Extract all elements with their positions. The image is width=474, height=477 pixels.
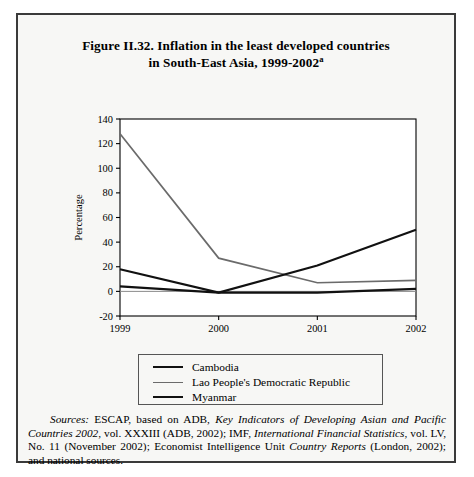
figure-title-line-2: in South-East Asia, 1999-2002 [148,55,319,70]
y-tick-label-60: 60 [103,212,113,223]
legend-item-cambodia: Cambodia [153,360,382,374]
y-tick-label--20: -20 [99,311,113,322]
x-tick-label-2002: 2002 [406,323,427,334]
source-text-2: , vol. XXXIII (ADB, 2002); IMF, [98,427,254,439]
figure-title-footnote-marker: a [319,54,323,64]
x-tick-label-1999: 1999 [110,323,131,334]
chart-legend: Cambodia Lao People's Democratic Republi… [138,354,383,405]
source-italic-2: International Financial Statistics [254,427,404,439]
y-tick-label-0: 0 [108,286,113,297]
source-label: Sources: [50,413,89,425]
y-tick-label-120: 120 [97,138,113,149]
legend-swatch-cambodia [153,366,183,368]
legend-label-cambodia: Cambodia [192,361,239,373]
chart-plot-area: -200204060801001201401999200020012002Per… [18,87,454,337]
source-text-1: ESCAP, based on ADB, [89,413,215,425]
plot-frame [120,119,416,316]
x-tick-label-2000: 2000 [208,323,229,334]
y-axis-title: Percentage [73,194,84,241]
source-note: Sources: ESCAP, based on ADB, Key Indica… [28,413,446,467]
y-tick-label-20: 20 [103,261,113,272]
legend-swatch-lao-pdr [153,382,183,383]
y-tick-label-40: 40 [103,237,113,248]
legend-item-myanmar: Myanmar [153,390,382,404]
y-tick-label-100: 100 [97,163,113,174]
x-tick-label-2001: 2001 [307,323,328,334]
legend-label-myanmar: Myanmar [192,391,236,403]
figure-title: Figure II.32. Inflation in the least dev… [44,37,428,71]
figure-title-line-1: Figure II.32. Inflation in the least dev… [82,38,390,53]
legend-swatch-myanmar [153,396,183,398]
y-tick-label-140: 140 [97,114,113,125]
source-italic-3: Country Reports [289,440,366,452]
y-tick-label-80: 80 [103,187,113,198]
legend-label-lao-pdr: Lao People's Democratic Republic [192,376,350,388]
figure-panel: Figure II.32. Inflation in the least dev… [16,13,456,463]
line-chart-svg: -200204060801001201401999200020012002Per… [18,87,454,337]
legend-item-lao-pdr: Lao People's Democratic Republic [153,375,382,389]
